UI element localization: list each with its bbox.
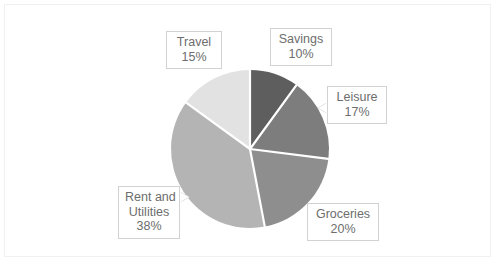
data-label-rent-and-utilities-name-line1: Rent and	[125, 190, 173, 205]
data-label-rent-and-utilities-value: 38%	[125, 219, 173, 234]
data-label-leisure[interactable]: Leisure 17%	[327, 86, 387, 124]
data-label-travel[interactable]: Travel 15%	[166, 31, 222, 69]
data-label-rent-and-utilities[interactable]: Rent and Utilities 38%	[118, 186, 180, 239]
data-label-leisure-value: 17%	[334, 105, 380, 120]
pie-chart-plot-area: Savings 10% Leisure 17% Groceries 20% Re…	[0, 0, 500, 266]
data-label-groceries-value: 20%	[314, 222, 372, 237]
data-label-savings-value: 10%	[277, 47, 325, 62]
data-label-travel-value: 15%	[173, 50, 215, 65]
data-label-groceries-name: Groceries	[314, 207, 372, 222]
pie-chart-svg	[0, 0, 500, 266]
chart-canvas: Savings 10% Leisure 17% Groceries 20% Re…	[0, 0, 500, 266]
leader-rent-and-utilities	[180, 192, 189, 202]
data-label-savings[interactable]: Savings 10%	[270, 28, 332, 66]
data-label-savings-name: Savings	[277, 32, 325, 47]
data-label-leisure-name: Leisure	[334, 90, 380, 105]
data-label-rent-and-utilities-name-line2: Utilities	[125, 205, 173, 220]
leader-leisure	[318, 103, 327, 113]
data-label-groceries[interactable]: Groceries 20%	[307, 203, 379, 241]
data-label-travel-name: Travel	[173, 35, 215, 50]
